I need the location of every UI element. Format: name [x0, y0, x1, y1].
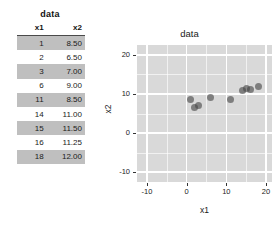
table-row: 1511.50	[17, 121, 85, 135]
y-axis-tick-mark	[133, 94, 136, 95]
table-cell-x2: 11.50	[47, 121, 85, 135]
x-axis-tick-label: 20	[254, 187, 278, 196]
data-point	[187, 96, 194, 103]
gridline-major-horizontal	[137, 93, 272, 95]
column-header-x2: x2	[47, 22, 85, 36]
y-axis-tick-label: -10	[108, 167, 130, 176]
data-point	[207, 94, 214, 101]
table-cell-x1: 6	[17, 79, 47, 93]
table-cell-x1: 16	[17, 135, 47, 149]
table-cell-x1: 11	[17, 93, 47, 107]
data-point	[255, 83, 262, 90]
table-cell-x1: 15	[17, 121, 47, 135]
gridline-major-horizontal	[137, 54, 272, 56]
gridline-major-vertical	[265, 45, 267, 182]
y-axis-tick-label: 20	[108, 50, 130, 59]
table-header-row: x1 x2	[17, 22, 85, 36]
table-body: 18.5026.5037.0069.00118.501411.001511.50…	[17, 36, 85, 164]
gridline-major-horizontal	[137, 132, 272, 134]
table-row: 1812.00	[17, 150, 85, 164]
table-header: x1 x2	[17, 22, 85, 36]
table-row: 118.50	[17, 93, 85, 107]
gridline-major-vertical	[226, 45, 228, 182]
data-point	[195, 102, 202, 109]
table-cell-x2: 8.50	[47, 36, 85, 51]
data-point	[247, 86, 254, 93]
table-cell-x1: 3	[17, 64, 47, 78]
table-cell-x1: 18	[17, 150, 47, 164]
table-cell-x1: 14	[17, 107, 47, 121]
table-cell-x2: 6.50	[47, 50, 85, 64]
y-axis-tick-mark	[133, 55, 136, 56]
scatter-chart-panel: data -1001020-1001020 x1 x2	[100, 0, 279, 244]
table-row: 69.00	[17, 79, 85, 93]
gridline-major-vertical	[186, 45, 188, 182]
table-cell-x1: 2	[17, 50, 47, 64]
y-axis-tick-label: 0	[108, 128, 130, 137]
x-axis-tick-label: 10	[214, 187, 238, 196]
chart-title: data	[100, 28, 279, 39]
table-row: 18.50	[17, 36, 85, 51]
x-axis-tick-label: 0	[175, 187, 199, 196]
gridline-minor-horizontal	[137, 114, 272, 115]
table-cell-x2: 7.00	[47, 64, 85, 78]
x-axis-tick-label: -10	[135, 187, 159, 196]
y-axis-tick-mark	[133, 133, 136, 134]
table-cell-x1: 1	[17, 36, 47, 51]
y-axis-label: x2	[103, 89, 113, 129]
gridline-minor-horizontal	[137, 153, 272, 154]
table-cell-x2: 11.00	[47, 107, 85, 121]
gridline-major-horizontal	[137, 171, 272, 173]
x-axis-tick-mark	[226, 183, 227, 186]
y-axis-tick-mark	[133, 172, 136, 173]
table-title: data	[0, 9, 100, 19]
table-cell-x2: 12.00	[47, 150, 85, 164]
x-axis-label: x1	[137, 205, 272, 215]
x-axis-tick-mark	[266, 183, 267, 186]
table-cell-x2: 9.00	[47, 79, 85, 93]
table-row: 26.50	[17, 50, 85, 64]
table-row: 37.00	[17, 64, 85, 78]
x-axis-tick-mark	[187, 183, 188, 186]
table-row: 1411.00	[17, 107, 85, 121]
table-row: 1611.25	[17, 135, 85, 149]
data-point	[227, 96, 234, 103]
gridline-minor-horizontal	[137, 74, 272, 75]
data-table-panel: data x1 x2 18.5026.5037.0069.00118.50141…	[0, 0, 100, 244]
table-cell-x2: 8.50	[47, 93, 85, 107]
data-table: x1 x2 18.5026.5037.0069.00118.501411.001…	[17, 22, 85, 164]
gridline-major-vertical	[146, 45, 148, 182]
table-cell-x2: 11.25	[47, 135, 85, 149]
column-header-x1: x1	[17, 22, 47, 36]
screenshot-root: data x1 x2 18.5026.5037.0069.00118.50141…	[0, 0, 279, 244]
plot-area	[137, 45, 272, 182]
x-axis-tick-mark	[147, 183, 148, 186]
